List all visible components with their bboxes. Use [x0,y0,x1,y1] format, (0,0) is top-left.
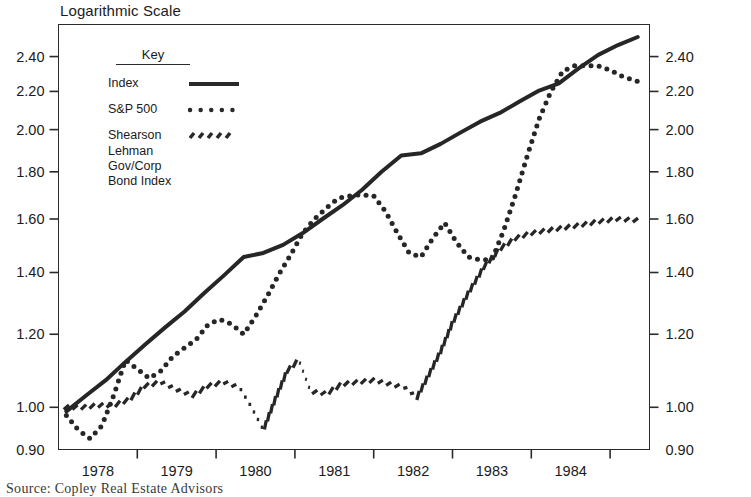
legend-swatch-solid [188,76,240,90]
legend-item-sp500: S&P 500 [108,102,248,117]
y-axis-right-tick-label: 1.60 [666,212,694,227]
chart-legend: Key Index S&P 500 Shearson Lehman Gov/Co… [108,48,248,189]
chart-title: Logarithmic Scale [60,2,181,19]
legend-label-index: Index [108,76,182,91]
y-axis-left-tick-label: 2.00 [16,123,44,138]
y-axis-left-tick-label: 0.90 [16,443,44,458]
chart-page: Logarithmic Scale 2.402.402.202.202.002.… [0,0,751,497]
y-axis-left-tick-label: 1.60 [16,212,44,227]
y-axis-left-tick-label: 2.40 [16,50,44,65]
legend-item-bond: Shearson Lehman Gov/Corp Bond Index [108,128,248,189]
y-axis-left-tick-label: 2.20 [16,84,44,99]
y-axis-right-tick-label: 1.80 [666,165,694,180]
legend-swatch-dotted [188,102,240,116]
y-axis-right-tick-label: 2.20 [666,84,694,99]
y-axis-right-tick-label: 1.40 [666,265,694,280]
x-axis-tick-label: 1979 [147,464,207,479]
y-axis-right-tick-label: 2.00 [666,123,694,138]
y-axis-left-tick-label: 1.80 [16,165,44,180]
legend-item-index: Index [108,76,248,91]
y-axis-right-tick-label: 2.40 [666,50,694,65]
legend-label-sp500: S&P 500 [108,102,182,117]
x-axis-tick-label: 1983 [462,464,522,479]
y-axis-left-tick-label: 1.40 [16,265,44,280]
x-axis-tick-label: 1978 [68,464,128,479]
x-axis-tick-label: 1981 [304,464,364,479]
x-axis-tick-label: 1982 [383,464,443,479]
legend-swatch-dashed [188,128,240,142]
y-axis-left-tick-label: 1.00 [16,400,44,415]
legend-label-bond: Shearson Lehman Gov/Corp Bond Index [108,128,182,189]
y-axis-right-tick-label: 1.20 [666,327,694,342]
x-axis-tick-label: 1980 [226,464,286,479]
y-axis-right-tick-label: 1.00 [666,400,694,415]
source-note: Source: Copley Real Estate Advisors [6,481,223,497]
y-axis-right-tick-label: 0.90 [666,443,694,458]
y-axis-left-tick-label: 1.20 [16,327,44,342]
x-axis-tick-label: 1984 [541,464,601,479]
legend-heading: Key [116,48,190,65]
